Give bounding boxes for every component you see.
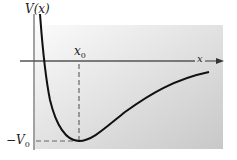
neg-v0-label-sub: 0 <box>25 140 30 149</box>
y-axis-label: V(x) <box>25 2 50 16</box>
x0-label: x0 <box>74 44 86 60</box>
x0-label-sub: 0 <box>81 51 86 60</box>
x0-label-base: x <box>74 44 81 58</box>
neg-v0-label: −V0 <box>6 133 30 149</box>
potential-energy-diagram <box>0 0 237 160</box>
neg-v0-label-base: −V <box>6 133 25 147</box>
x-axis-label: x <box>197 53 203 64</box>
